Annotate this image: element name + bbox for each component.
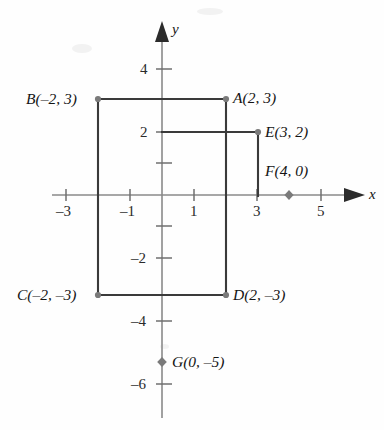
point-label-F: F(4, 0): [265, 163, 308, 179]
y-tick-label-4: 4: [140, 62, 148, 77]
x-tick-label-1: 1: [190, 204, 198, 219]
marker-point-C: [95, 292, 101, 298]
marker-point-B: [95, 96, 101, 102]
segments-to-e: [162, 132, 258, 196]
y-axis-label: y: [172, 22, 179, 37]
marker-point-A: [223, 96, 229, 102]
marker-point-E: [255, 129, 261, 135]
marker-point-F: [284, 190, 293, 200]
x-tick-label--3: –3: [56, 204, 71, 219]
x-axis-arrow: [344, 188, 365, 202]
y-tick-label--2: –2: [131, 251, 146, 266]
x-tick-label-5: 5: [317, 204, 325, 219]
x-tick-label-3: 3: [253, 204, 261, 219]
x-tick-label--1: –1: [120, 204, 135, 219]
y-axis-ticks: [156, 69, 172, 384]
y-tick-label--4: –4: [131, 314, 146, 329]
point-label-D: D(2, –3): [233, 287, 286, 303]
point-markers: [95, 96, 294, 367]
point-label-E: E(3, 2): [265, 124, 308, 140]
y-axis-arrow: [155, 21, 169, 42]
point-label-A: A(2, 3): [233, 90, 276, 106]
point-label-C: C(–2, –3): [17, 287, 76, 303]
coordinate-plane-figure: y x –3 –1 1 3 5 4 2 –2 –4 –6 B(–2, 3) A(…: [0, 0, 384, 430]
marker-point-D: [223, 292, 229, 298]
y-tick-label--6: –6: [131, 377, 146, 392]
x-axis-label: x: [369, 187, 376, 202]
point-label-B: B(–2, 3): [26, 91, 77, 107]
marker-point-G: [157, 357, 167, 367]
y-tick-label-2: 2: [140, 125, 148, 140]
point-label-G: G(0, –5): [172, 354, 225, 370]
